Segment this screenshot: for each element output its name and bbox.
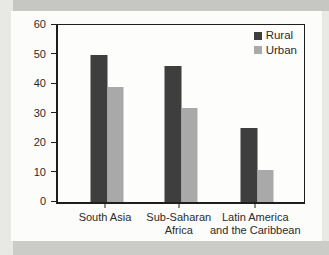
bar-rural bbox=[164, 66, 181, 202]
legend-swatch-urban bbox=[254, 46, 262, 54]
x-axis-category-label-line: Latin America bbox=[190, 211, 320, 224]
bar-rural bbox=[241, 128, 258, 202]
y-axis-tick bbox=[51, 24, 56, 25]
legend-label: Rural bbox=[266, 30, 293, 42]
x-axis-tick bbox=[104, 203, 105, 208]
chart-legend: RuralUrban bbox=[254, 30, 297, 59]
y-axis-tick-label: 40 bbox=[34, 78, 46, 89]
legend-label: Urban bbox=[266, 45, 297, 57]
y-axis-tick bbox=[51, 201, 56, 202]
legend-item-urban: Urban bbox=[254, 45, 297, 57]
y-axis-tick-label: 50 bbox=[34, 48, 46, 59]
y-axis-tick bbox=[51, 142, 56, 143]
x-axis-category-label-line: and the Caribbean bbox=[190, 224, 320, 237]
bar-group bbox=[90, 55, 123, 203]
x-axis: South AsiaSub-SaharanAfricaLatin America… bbox=[56, 203, 302, 247]
bar-urban bbox=[181, 108, 197, 202]
y-axis-tick bbox=[51, 112, 56, 113]
y-axis-tick-label: 10 bbox=[34, 166, 46, 177]
y-axis-tick-label: 0 bbox=[40, 196, 46, 207]
x-axis-category-label: Latin Americaand the Caribbean bbox=[190, 211, 320, 237]
bar-urban bbox=[258, 170, 274, 202]
bar-group bbox=[241, 128, 274, 202]
y-axis-tick bbox=[51, 53, 56, 54]
y-axis-tick-label: 20 bbox=[34, 137, 46, 148]
legend-item-rural: Rural bbox=[254, 30, 297, 42]
figure-page: RuralUrban 0102030405060 South AsiaSub-S… bbox=[0, 0, 329, 255]
bar-rural bbox=[90, 55, 107, 203]
y-axis-tick-label: 60 bbox=[34, 19, 46, 30]
y-axis-tick bbox=[51, 83, 56, 84]
y-axis-tick-label: 30 bbox=[34, 107, 46, 118]
x-axis-tick bbox=[255, 203, 256, 208]
bar-urban bbox=[107, 87, 123, 202]
x-axis-tick bbox=[178, 203, 179, 208]
y-axis-tick bbox=[51, 171, 56, 172]
page-top-band bbox=[13, 0, 329, 11]
legend-swatch-rural bbox=[254, 32, 262, 40]
bar-group bbox=[164, 66, 197, 202]
y-axis: 0102030405060 bbox=[0, 24, 56, 201]
plot-area: RuralUrban bbox=[56, 24, 305, 204]
